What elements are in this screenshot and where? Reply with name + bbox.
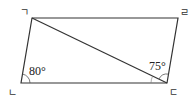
parallelogram-diagram: ㄱ ㄴ ㄷ ㄹ 80° 75° — [0, 0, 196, 98]
vertex-label-bottom-right: ㄷ — [169, 87, 178, 98]
vertex-label-bottom-left: ㄴ — [8, 87, 17, 98]
diagonal-line — [32, 18, 167, 83]
angle-label-bottom-left: 80° — [29, 64, 46, 78]
angle-arc-bottom-right-inner — [151, 76, 153, 83]
vertex-label-top-right: ㄹ — [180, 7, 189, 18]
vertex-label-top-left: ㄱ — [20, 7, 29, 18]
angle-label-bottom-right: 75° — [149, 59, 166, 73]
angle-arc-bottom-right — [159, 74, 169, 79]
